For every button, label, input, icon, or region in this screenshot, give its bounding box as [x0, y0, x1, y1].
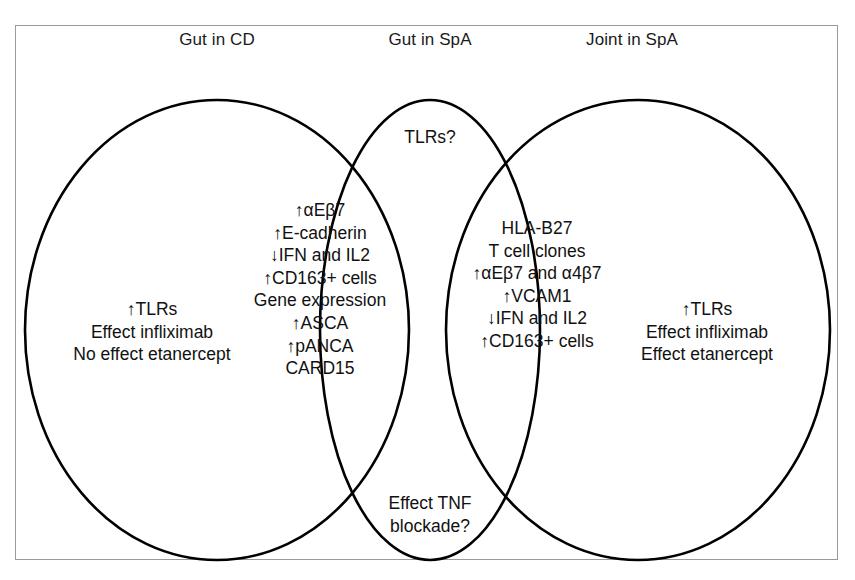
region-left-center-overlap-text: ↑αEβ7 ↑E-cadherin ↓IFN and IL2 ↑CD163+ c…: [254, 199, 386, 380]
left-center-line-6: ↑ASCA: [254, 312, 386, 335]
left-center-line-2: ↑E-cadherin: [254, 222, 386, 245]
venn-diagram-figure: Gut in CD Gut in SpA Joint in SpA TLRs? …: [0, 0, 855, 580]
right-only-line-3: Effect etanercept: [641, 343, 773, 366]
region-center-right-overlap-text: HLA-B27 T cell clones ↑αEβ7 and α4β7 ↑VC…: [473, 217, 602, 353]
left-only-line-3: No effect etanercept: [73, 343, 230, 366]
center-right-line-1: HLA-B27: [473, 217, 602, 240]
left-center-line-1: ↑αEβ7: [254, 199, 386, 222]
label-top-overlap-line: TLRs?: [404, 126, 456, 149]
center-right-line-3: ↑αEβ7 and α4β7: [473, 262, 602, 285]
center-right-line-6: ↑CD163+ cells: [473, 330, 602, 353]
left-center-line-3: ↓IFN and IL2: [254, 244, 386, 267]
label-bottom-overlap-tnf: Effect TNF blockade?: [389, 492, 472, 537]
column-header-gut-in-spa: Gut in SpA: [388, 30, 471, 50]
bottom-overlap-line-2: blockade?: [389, 515, 472, 538]
center-right-line-2: T cell clones: [473, 240, 602, 263]
region-right-only-text: ↑TLRs Effect infliximab Effect etanercep…: [641, 298, 773, 366]
center-right-line-4: ↑VCAM1: [473, 285, 602, 308]
column-header-joint-in-spa: Joint in SpA: [586, 30, 678, 50]
left-only-line-2: Effect infliximab: [73, 321, 230, 344]
left-only-line-1: ↑TLRs: [73, 298, 230, 321]
left-center-line-4: ↑CD163+ cells: [254, 267, 386, 290]
column-header-gut-in-cd: Gut in CD: [179, 30, 255, 50]
label-top-overlap-tlrs: TLRs?: [404, 126, 456, 149]
center-right-line-5: ↓IFN and IL2: [473, 307, 602, 330]
left-center-line-8: CARD15: [254, 357, 386, 380]
left-center-line-7: ↑pANCA: [254, 335, 386, 358]
region-left-only-text: ↑TLRs Effect infliximab No effect etaner…: [73, 298, 230, 366]
right-only-line-1: ↑TLRs: [641, 298, 773, 321]
bottom-overlap-line-1: Effect TNF: [389, 492, 472, 515]
left-center-line-5: Gene expression: [254, 289, 386, 312]
right-only-line-2: Effect infliximab: [641, 321, 773, 344]
